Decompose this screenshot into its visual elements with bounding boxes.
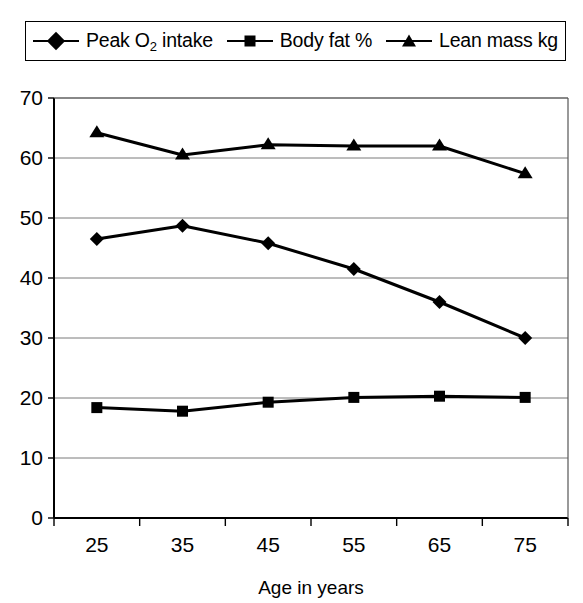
y-tick-label: 50 bbox=[20, 206, 43, 229]
series-line bbox=[97, 226, 525, 338]
data-series-group bbox=[89, 125, 532, 416]
y-tick-labels-group: 010203040506070 bbox=[20, 86, 43, 529]
data-point-diamond bbox=[90, 232, 104, 246]
data-point-triangle bbox=[89, 125, 104, 137]
legend-key-lean-mass bbox=[386, 32, 432, 50]
data-point-diamond bbox=[176, 219, 190, 233]
legend-key-peak-o2-intake bbox=[33, 32, 79, 50]
legend-label-lean-mass: Lean mass kg bbox=[439, 31, 558, 51]
legend-label-peak-o2-intake: Peak O2 intake bbox=[86, 31, 213, 51]
chart-legend: Peak O2 intake Body fat % Lean mass kg bbox=[25, 21, 566, 61]
y-tick-label: 0 bbox=[31, 506, 43, 529]
legend-item-lean-mass: Lean mass kg bbox=[386, 31, 558, 51]
data-point-square bbox=[91, 402, 102, 413]
x-axis-title: Age in years bbox=[258, 577, 364, 598]
data-point-square bbox=[434, 391, 445, 402]
legend-item-peak-o2-intake: Peak O2 intake bbox=[33, 31, 213, 51]
square-marker-icon bbox=[244, 36, 255, 47]
x-tick-label: 25 bbox=[85, 533, 108, 556]
line-chart-svg: 010203040506070 253545556575 Age in year… bbox=[0, 70, 583, 603]
data-point-square bbox=[348, 392, 359, 403]
x-tick-label: 65 bbox=[428, 533, 451, 556]
x-tick-label: 75 bbox=[513, 533, 536, 556]
data-point-square bbox=[177, 406, 188, 417]
legend-key-body-fat bbox=[227, 32, 273, 50]
triangle-marker-icon bbox=[402, 34, 416, 46]
data-point-diamond bbox=[433, 295, 447, 309]
y-tick-label: 60 bbox=[20, 146, 43, 169]
series-peak-o2-intake bbox=[90, 219, 532, 345]
legend-label-body-fat: Body fat % bbox=[280, 31, 372, 51]
series-lean-mass-kg bbox=[89, 125, 532, 178]
x-tick-labels-group: 253545556575 bbox=[85, 533, 537, 556]
data-point-triangle bbox=[261, 137, 276, 149]
x-tick-label: 45 bbox=[256, 533, 279, 556]
y-tick-label: 20 bbox=[20, 386, 43, 409]
y-tick-label: 40 bbox=[20, 266, 43, 289]
data-point-diamond bbox=[261, 236, 275, 250]
x-tick-marks-group bbox=[54, 518, 568, 526]
y-tick-label: 10 bbox=[20, 446, 43, 469]
legend-item-body-fat: Body fat % bbox=[227, 31, 372, 51]
diamond-marker-icon bbox=[47, 32, 65, 50]
plot-area: 010203040506070 253545556575 Age in year… bbox=[0, 70, 583, 603]
chart-figure: Peak O2 intake Body fat % Lean mass kg 0… bbox=[0, 0, 583, 603]
data-point-diamond bbox=[347, 262, 361, 276]
data-point-diamond bbox=[518, 331, 532, 345]
y-tick-label: 30 bbox=[20, 326, 43, 349]
data-point-square bbox=[520, 392, 531, 403]
x-tick-label: 35 bbox=[171, 533, 194, 556]
series-line bbox=[97, 133, 525, 174]
y-tick-label: 70 bbox=[20, 86, 43, 109]
x-tick-label: 55 bbox=[342, 533, 365, 556]
data-point-square bbox=[263, 397, 274, 408]
series-body-fat bbox=[91, 391, 530, 417]
